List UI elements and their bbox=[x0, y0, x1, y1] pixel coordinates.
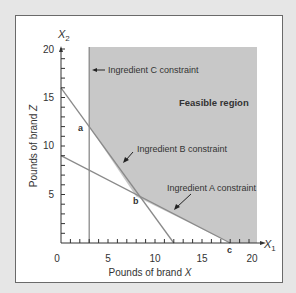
x-tick-5: 5 bbox=[105, 253, 111, 264]
x-tick-20: 20 bbox=[246, 253, 258, 264]
y-axis-title: Pounds of brand Z bbox=[28, 104, 39, 187]
y-tick-20: 20 bbox=[43, 44, 55, 55]
x-tick-0: 0 bbox=[54, 253, 60, 264]
x-tick-10: 10 bbox=[149, 253, 161, 264]
x1-symbol: X1 bbox=[263, 238, 276, 253]
y-tick-10: 10 bbox=[43, 140, 55, 151]
point-c-label: c bbox=[227, 245, 232, 255]
y-ticks bbox=[61, 49, 65, 233]
label-ingredient-c: Ingredient C constraint bbox=[108, 65, 199, 75]
y-tick-5: 5 bbox=[48, 189, 54, 200]
x-tick-15: 15 bbox=[196, 253, 208, 264]
lp-chart: 20 15 10 5 0 5 10 15 20 X2 X1 Pounds of … bbox=[0, 0, 296, 293]
label-ingredient-a: Ingredient A constraint bbox=[167, 183, 257, 193]
x2-symbol: X2 bbox=[57, 28, 70, 43]
point-a-label: a bbox=[78, 123, 84, 133]
label-feasible-region: Feasible region bbox=[179, 97, 249, 108]
label-ingredient-b: Ingredient B constraint bbox=[137, 144, 228, 154]
y-tick-15: 15 bbox=[43, 92, 55, 103]
x-axis-title: Pounds of brand X bbox=[109, 267, 192, 278]
point-b-label: b bbox=[133, 196, 139, 206]
